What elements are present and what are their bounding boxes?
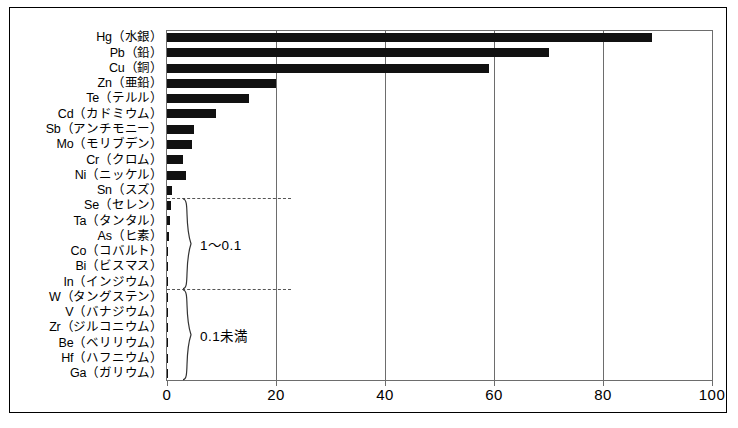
- y-axis-label: Pb（鉛）: [10, 45, 166, 60]
- y-axis-label: In（インジウム）: [10, 274, 166, 289]
- y-axis-label: Sn（スズ）: [10, 183, 166, 198]
- y-axis-label: W（タングステン）: [10, 290, 166, 305]
- x-tick-label: 40: [376, 386, 394, 403]
- bar-row: [166, 290, 713, 305]
- bar-row: [166, 305, 713, 320]
- y-axis-label: Sb（アンチモニー）: [10, 122, 166, 137]
- bar-row: [166, 351, 713, 366]
- bar-row: [166, 137, 713, 152]
- y-axis-label: Hf（ハフニウム）: [10, 351, 166, 366]
- bar-row: [166, 213, 713, 228]
- bar: [167, 125, 194, 134]
- bar: [167, 201, 171, 210]
- bar: [167, 232, 169, 241]
- range-under-0.1: 0.1未満: [180, 289, 247, 381]
- bar: [167, 216, 170, 225]
- bar: [167, 79, 276, 88]
- bar: [167, 277, 168, 286]
- x-tick-label: 100: [699, 386, 726, 403]
- bar-row: [166, 76, 713, 91]
- bar-row: [166, 228, 713, 243]
- bar: [167, 33, 652, 42]
- bar: [167, 247, 168, 256]
- y-axis-label: Cd（カドミウム）: [10, 106, 166, 121]
- bar-row: [166, 152, 713, 167]
- bar-row: [166, 45, 713, 60]
- annotation-label: 1〜0.1: [200, 234, 242, 254]
- y-axis-label: Hg（水銀）: [10, 30, 166, 45]
- bar: [167, 171, 186, 180]
- x-tick-label: 60: [485, 386, 503, 403]
- y-axis-labels: Hg（水銀）Pb（鉛）Cu（銅）Zn（亜鉛）Te（テルル）Cd（カドミウム）Sb…: [10, 30, 166, 381]
- chart-figure: Hg（水銀）Pb（鉛）Cu（銅）Zn（亜鉛）Te（テルル）Cd（カドミウム）Sb…: [9, 7, 727, 413]
- y-axis-label: Ga（ガリウム）: [10, 366, 166, 381]
- y-axis-label: Be（ベリリウム）: [10, 335, 166, 350]
- x-tick-label: 20: [267, 386, 285, 403]
- bar-row: [166, 274, 713, 289]
- bar: [167, 48, 549, 57]
- x-axis-labels: 020406080100: [166, 386, 713, 408]
- y-axis-label: Bi（ビスマス）: [10, 259, 166, 274]
- y-axis-label: Cu（銅）: [10, 61, 166, 76]
- bar-row: [166, 366, 713, 381]
- bar-row: [166, 30, 713, 45]
- bar: [167, 109, 216, 118]
- bar: [167, 140, 192, 149]
- x-tick-label: 0: [163, 386, 172, 403]
- bar-row: [166, 198, 713, 213]
- curly-brace-icon: [180, 289, 196, 381]
- annotation-label: 0.1未満: [200, 325, 247, 345]
- bar-row: [166, 259, 713, 274]
- bar-row: [166, 244, 713, 259]
- bar-rows: [166, 30, 713, 381]
- x-tick-label: 80: [594, 386, 612, 403]
- y-axis-label: Zr（ジルコニウム）: [10, 320, 166, 335]
- y-axis-label: Se（セレン）: [10, 198, 166, 213]
- bar: [167, 155, 183, 164]
- bar-row: [166, 167, 713, 182]
- bar-row: [166, 320, 713, 335]
- y-axis-label: Cr（クロム）: [10, 152, 166, 167]
- bar-row: [166, 91, 713, 106]
- bar-row: [166, 122, 713, 137]
- bar: [167, 64, 489, 73]
- y-axis-label: Te（テルル）: [10, 91, 166, 106]
- bar-row: [166, 106, 713, 121]
- y-axis-label: Mo（モリブデン）: [10, 137, 166, 152]
- bar-row: [166, 61, 713, 76]
- y-axis-label: Ni（ニッケル）: [10, 167, 166, 182]
- y-axis-label: Co（コバルト）: [10, 244, 166, 259]
- y-axis-label: Zn（亜鉛）: [10, 76, 166, 91]
- bar-row: [166, 183, 713, 198]
- y-axis-label: Ta（タンタル）: [10, 213, 166, 228]
- plot-area: 1〜0.10.1未満: [166, 30, 713, 381]
- bar: [167, 94, 249, 103]
- bar: [167, 186, 172, 195]
- curly-brace-icon: [180, 198, 196, 290]
- range-1-to-0.1: 1〜0.1: [180, 198, 242, 290]
- bar: [167, 262, 168, 271]
- bar-row: [166, 335, 713, 350]
- y-axis-label: V（バナジウム）: [10, 305, 166, 320]
- y-axis-label: As（ヒ素）: [10, 228, 166, 243]
